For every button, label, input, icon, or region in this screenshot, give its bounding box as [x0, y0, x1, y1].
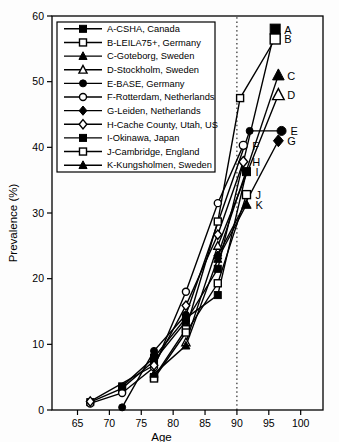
diamond-filled-marker-icon	[273, 135, 283, 147]
square-filled-marker-icon	[151, 354, 158, 361]
y-tick-label: 20	[32, 272, 44, 284]
square-open-marker-icon	[242, 191, 250, 199]
legend-label: J-Cambridge, England	[107, 147, 200, 157]
x-axis: 65707580859095100	[72, 410, 310, 429]
x-tick-label: 95	[263, 417, 275, 429]
series-C-line	[218, 75, 279, 256]
series-I-line	[122, 172, 246, 387]
x-tick-label: 100	[292, 417, 310, 429]
triangle-open-marker-icon	[273, 89, 285, 100]
circle-filled-marker-icon	[119, 404, 126, 411]
y-tick-label: 0	[38, 404, 44, 416]
series-J-line	[154, 195, 246, 379]
series-K-line	[154, 204, 246, 373]
legend-item-D: D-Stockholm, Sweden	[64, 65, 199, 75]
circle-open-marker-icon	[182, 288, 189, 295]
prevalence-by-age-figure: 657075808590951000102030405060AgePrevale…	[0, 0, 339, 442]
circle-filled-marker-icon	[80, 80, 87, 87]
circle-filled-marker-icon	[277, 126, 286, 135]
series-D-end-label: D	[287, 89, 295, 101]
x-tick-label: 80	[167, 417, 179, 429]
square-open-marker-icon	[80, 39, 87, 46]
series-H-markers	[86, 157, 247, 407]
x-tick-label: 65	[72, 417, 84, 429]
square-open-marker-icon	[182, 329, 189, 336]
x-tick-label: 75	[135, 417, 147, 429]
legend-item-E: E-BASE, Germany	[64, 79, 185, 89]
circle-filled-marker-icon	[246, 127, 253, 134]
square-open-marker-icon	[214, 218, 221, 225]
square-filled-marker-icon	[214, 292, 221, 299]
legend-label: F-Rotterdam, Netherlands	[107, 92, 215, 102]
series-I-end-label: I	[255, 166, 258, 178]
square-open-marker-icon	[270, 34, 280, 44]
legend-label: H-Cache County, Utah, US	[107, 120, 218, 130]
legend-label: I-Okinawa, Japan	[107, 133, 179, 143]
legend-item-I: I-Okinawa, Japan	[64, 133, 179, 143]
y-axis-title: Prevalence (%)	[7, 184, 19, 263]
series-K-end-label: K	[255, 199, 263, 211]
circle-filled-marker-icon	[151, 347, 158, 354]
legend-label: K-Kungsholmen, Sweden	[107, 160, 212, 170]
legend-label: B-LEILA75+, Germany	[107, 38, 201, 48]
circle-open-marker-icon	[214, 200, 221, 207]
y-tick-label: 40	[32, 141, 44, 153]
legend-label: C-Goteborg, Sweden	[107, 51, 194, 61]
square-filled-marker-icon	[214, 265, 221, 272]
square-filled-marker-icon	[80, 25, 87, 32]
circle-open-marker-icon	[239, 141, 247, 149]
y-tick-label: 50	[32, 75, 44, 87]
x-tick-label: 70	[104, 417, 116, 429]
x-tick-label: 90	[231, 417, 243, 429]
series-I-markers	[119, 168, 251, 390]
series-G-end-label: G	[287, 135, 296, 147]
legend-label: G-Leiden, Netherlands	[107, 106, 201, 116]
square-open-marker-icon	[237, 95, 244, 102]
square-filled-marker-icon	[119, 383, 126, 390]
y-tick-label: 30	[32, 207, 44, 219]
circle-open-marker-icon	[80, 94, 87, 101]
y-axis: 0102030405060	[32, 10, 52, 416]
square-open-marker-icon	[214, 280, 221, 287]
series-F-end-label: F	[252, 140, 259, 152]
legend-label: D-Stockholm, Sweden	[107, 65, 199, 75]
square-filled-marker-icon	[80, 134, 87, 141]
series-C-end-label: C	[287, 70, 295, 82]
x-axis-title: Age	[151, 431, 171, 442]
legend-item-C: C-Goteborg, Sweden	[64, 51, 194, 61]
y-tick-label: 60	[32, 10, 44, 22]
legend: A-CSHA, CanadaB-LEILA75+, GermanyC-Goteb…	[57, 22, 218, 172]
legend-label: A-CSHA, Canada	[107, 24, 181, 34]
prevalence-line-chart: 657075808590951000102030405060AgePrevale…	[0, 0, 339, 442]
square-filled-marker-icon	[242, 168, 250, 176]
x-tick-label: 85	[199, 417, 211, 429]
legend-label: E-BASE, Germany	[107, 79, 185, 89]
legend-item-B: B-LEILA75+, Germany	[64, 38, 201, 48]
square-filled-marker-icon	[270, 24, 280, 34]
legend-item-A: A-CSHA, Canada	[64, 24, 181, 34]
y-tick-label: 10	[32, 338, 44, 350]
triangle-filled-marker-icon	[273, 69, 285, 80]
legend-item-J: J-Cambridge, England	[64, 147, 200, 157]
series-B-end-label: B	[284, 33, 291, 45]
square-open-marker-icon	[80, 148, 87, 155]
circle-open-marker-icon	[119, 389, 126, 396]
square-filled-marker-icon	[182, 315, 189, 322]
